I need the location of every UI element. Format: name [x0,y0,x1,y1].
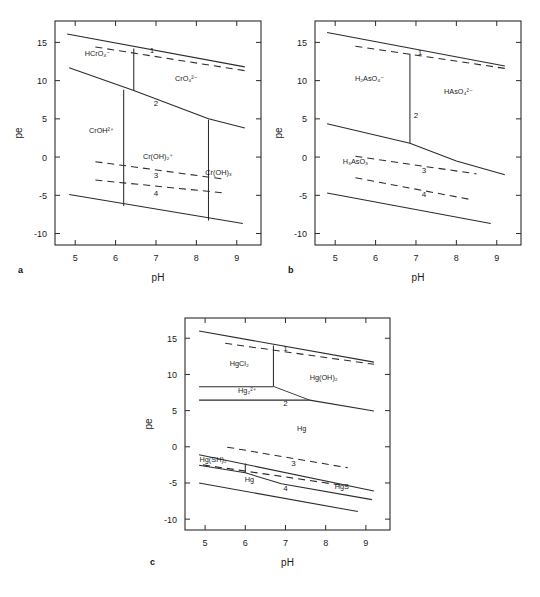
y-tick-label: -5 [39,191,47,201]
boundary-line [327,32,505,66]
boundary-number: 1 [283,344,288,353]
x-tick-label: 5 [73,253,78,263]
species-label: Hg₂²⁺ [238,386,257,395]
species-label: Hg [245,475,254,484]
x-tick-label: 7 [283,538,288,548]
boundary-line [355,46,504,68]
boundary-number: 2 [283,399,288,408]
y-tick-label: 0 [42,153,47,163]
species-label: HAsO₄²⁻ [444,87,473,96]
y-axis-title: pe [273,127,284,139]
boundary-line [355,156,476,174]
species-label: Cr(OH)₃ [205,168,232,177]
y-tick-label: 5 [42,114,47,124]
pe-ph-plot-b: 56789151050-5-10pHpe1234H₂AsO₄⁻HAsO₄²⁻H₃… [270,0,540,297]
y-axis-title: pe [13,127,24,139]
x-tick-label: 8 [454,253,459,263]
boundary-number: 4 [422,190,427,199]
y-tick-label: -10 [294,229,307,239]
species-label: H₃AsO₃ [343,157,368,166]
x-tick-label: 5 [333,253,338,263]
pe-ph-plot-c: 56789151050-5-10pHpe1234HgCl₂Hg(OH)₂Hg₂²… [135,295,426,582]
species-label: Hg(SH)₂ [200,455,227,464]
boundary-number: 2 [414,111,419,120]
y-tick-label: -10 [34,229,47,239]
species-label: Cr(OH)₂⁺ [143,152,173,161]
species-label: Hg(OH)₂ [310,373,338,382]
y-tick-label: 5 [172,406,177,416]
y-axis-title: pe [143,418,154,430]
boundary-number: 1 [150,46,155,55]
x-axis-title: pH [152,272,165,283]
boundary-number: 4 [283,484,288,493]
panel-label-a: a [18,265,23,275]
x-tick-label: 6 [373,253,378,263]
boundary-line [327,193,491,224]
y-tick-label: 10 [167,370,177,380]
x-tick-label: 8 [323,538,328,548]
species-label: Hg [297,424,306,433]
y-tick-label: 10 [37,76,47,86]
pe-ph-plot-a: 56789151050-5-10pHpe1234HCrO₄⁻CrO₄²⁻CrOH… [0,0,297,297]
panel-c-mercury: 56789151050-5-10pHpe1234HgCl₂Hg(OH)₂Hg₂²… [135,295,426,582]
y-tick-label: -5 [299,191,307,201]
x-tick-label: 5 [203,538,208,548]
y-tick-label: 0 [302,153,307,163]
x-tick-label: 7 [153,253,158,263]
x-tick-label: 6 [243,538,248,548]
boundary-number: 3 [154,171,159,180]
boundary-number: 4 [154,189,159,198]
boundary-number: 3 [422,166,427,175]
x-tick-label: 9 [234,253,239,263]
boundary-line [355,178,472,200]
species-label: HgS [335,482,349,491]
x-tick-label: 9 [494,253,499,263]
y-tick-label: 15 [167,334,177,344]
species-label: CrOH²⁺ [89,126,114,135]
y-tick-label: 0 [172,442,177,452]
panel-label-c: c [150,557,155,567]
x-tick-label: 8 [194,253,199,263]
species-label: H₂AsO₄⁻ [355,74,384,83]
species-label: CrO₄²⁻ [175,74,198,83]
boundary-line [203,465,346,486]
boundary-line [69,68,245,128]
y-tick-label: 5 [302,114,307,124]
panel-label-b: b [288,265,294,275]
y-tick-label: -10 [164,515,177,525]
x-tick-label: 6 [113,253,118,263]
y-tick-label: 10 [297,76,307,86]
panel-a-chromium: 56789151050-5-10pHpe1234HCrO₄⁻CrO₄²⁻CrOH… [0,0,297,297]
boundary-line [327,124,505,175]
species-label: HgCl₂ [230,359,249,368]
y-tick-label: 15 [37,38,47,48]
x-axis-title: pH [281,557,294,568]
species-label: HCrO₄⁻ [85,49,111,58]
boundary-line [95,180,224,193]
boundary-line [95,47,244,71]
panel-b-arsenic: 56789151050-5-10pHpe1234H₂AsO₄⁻HAsO₄²⁻H₃… [270,0,540,297]
x-tick-label: 9 [363,538,368,548]
y-tick-label: -5 [169,478,177,488]
y-tick-label: 15 [297,38,307,48]
x-axis-title: pH [412,272,425,283]
boundary-number: 3 [291,459,296,468]
x-tick-label: 7 [413,253,418,263]
boundary-line [69,195,243,224]
boundary-number: 1 [418,48,423,57]
boundary-line [273,386,373,411]
boundary-number: 2 [154,99,159,108]
